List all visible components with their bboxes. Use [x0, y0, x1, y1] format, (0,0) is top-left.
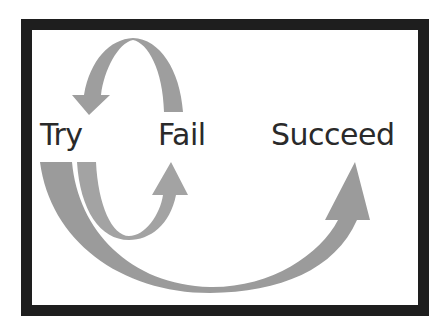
label-fail: Fail [158, 120, 206, 150]
cycle-arrows [0, 0, 445, 327]
arrow-fail-to-try [72, 38, 183, 115]
label-succeed: Succeed [271, 120, 395, 150]
label-try: Try [40, 120, 83, 150]
